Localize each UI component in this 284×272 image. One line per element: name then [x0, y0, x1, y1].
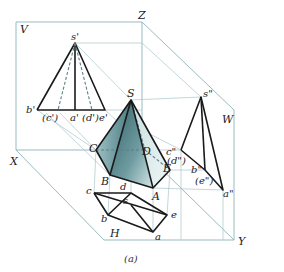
side-b-label: b": [191, 164, 202, 175]
x-axis-label: X: [9, 155, 19, 168]
y-axis-label: Y: [238, 235, 247, 248]
top-a-label: a: [155, 231, 161, 242]
three-view-projection-diagram: V Z W X H Y s' b' (c') a' (d') e' S C D …: [0, 0, 284, 272]
pyramid-vertex-d-label: D: [141, 145, 151, 158]
w-plane-label: W: [222, 113, 235, 126]
top-e-label: e: [171, 209, 177, 220]
pyramid-vertex-a-label: A: [151, 190, 160, 203]
h-plane-label: H: [109, 227, 120, 240]
top-c-label: c: [86, 185, 92, 196]
side-e-label: (e"): [195, 175, 213, 186]
side-a-label: a": [223, 188, 234, 199]
top-s-label: s: [123, 195, 128, 206]
z-axis-label: Z: [137, 9, 146, 22]
top-b-label: b: [101, 213, 107, 224]
v-plane-label: V: [20, 23, 29, 36]
front-apex-label: s': [71, 31, 79, 42]
side-d-label: (d"): [167, 155, 186, 166]
pyramid-vertex-c-label: C: [89, 142, 98, 155]
pyramid-apex-s-label: S: [127, 87, 135, 100]
front-a-label: a': [70, 112, 79, 123]
front-b-label: b': [26, 104, 35, 115]
front-d-label: (d'): [82, 112, 99, 123]
front-c-label: (c'): [42, 112, 58, 123]
top-d-label: d: [120, 181, 126, 192]
w-plane-top-edge: [142, 22, 234, 110]
front-view: [37, 43, 105, 110]
pyramid-vertex-b-label: B: [100, 175, 109, 188]
side-apex-label: s": [203, 88, 213, 99]
figure-caption: (a): [124, 253, 138, 264]
front-e-label: e': [99, 112, 108, 123]
